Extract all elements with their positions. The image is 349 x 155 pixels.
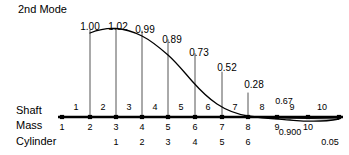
amplitude-label-8: 0.900 bbox=[279, 128, 302, 137]
shaft-number-6: 6 bbox=[205, 103, 210, 112]
shaft-number-1: 1 bbox=[73, 103, 78, 112]
mode-shape-figure: 2nd Mode Shaft Mass Cylinder 1.001.020.9… bbox=[0, 0, 349, 155]
figure-title: 2nd Mode bbox=[18, 4, 67, 15]
cylinder-number-5: 5 bbox=[219, 138, 224, 147]
row-label-mass: Mass bbox=[16, 120, 42, 131]
mass-node-2 bbox=[88, 115, 92, 119]
mass-number-5: 5 bbox=[165, 123, 170, 132]
mass-node-4 bbox=[140, 115, 144, 119]
amplitude-label-5: 0.52 bbox=[217, 63, 236, 73]
mass-number-7: 7 bbox=[219, 123, 224, 132]
mass-node-5 bbox=[166, 115, 170, 119]
cylinder-number-1: 1 bbox=[113, 138, 118, 147]
shaft-number-5: 5 bbox=[178, 103, 183, 112]
shaft-number-8: 8 bbox=[259, 103, 264, 112]
mass-number-1: 1 bbox=[59, 123, 64, 132]
mass-node-end bbox=[337, 115, 341, 119]
mass-node-10 bbox=[306, 115, 310, 119]
amplitude-label-2: 0.99 bbox=[135, 25, 154, 35]
mass-node-7 bbox=[220, 115, 224, 119]
mass-number-8: 8 bbox=[245, 123, 250, 132]
cylinder-number-6: 6 bbox=[245, 138, 250, 147]
row-label-cylinder: Cylinder bbox=[16, 136, 56, 147]
mass-node-6 bbox=[193, 115, 197, 119]
row-label-shaft: Shaft bbox=[16, 105, 42, 116]
mass-number-10: 10 bbox=[303, 123, 313, 132]
mass-node-8 bbox=[246, 115, 250, 119]
cylinder-number-3: 3 bbox=[165, 138, 170, 147]
amplitude-label-0: 1.00 bbox=[80, 22, 99, 32]
mass-number-2: 2 bbox=[87, 123, 92, 132]
mass-number-6: 6 bbox=[192, 123, 197, 132]
mass-number-9: 9 bbox=[274, 123, 279, 132]
amplitude-label-6: 0.28 bbox=[244, 80, 263, 90]
cylinder-number-4: 4 bbox=[192, 138, 197, 147]
mass-number-3: 3 bbox=[113, 123, 118, 132]
shaft-number-9: 9 bbox=[289, 103, 294, 112]
amplitude-label-9: 0.05 bbox=[321, 138, 339, 147]
mass-node-3 bbox=[114, 115, 118, 119]
shaft-number-2: 2 bbox=[100, 103, 105, 112]
cylinder-number-2: 2 bbox=[139, 138, 144, 147]
shaft-number-4: 4 bbox=[152, 103, 157, 112]
shaft-number-10: 10 bbox=[317, 103, 327, 112]
shaft-number-3: 3 bbox=[126, 103, 131, 112]
amplitude-label-4: 0.73 bbox=[189, 48, 208, 58]
shaft-number-7: 7 bbox=[232, 103, 237, 112]
mass-number-4: 4 bbox=[139, 123, 144, 132]
amplitude-label-1: 1.02 bbox=[108, 22, 127, 32]
amplitude-label-3: 0.89 bbox=[162, 35, 181, 45]
mass-node-1 bbox=[60, 115, 64, 119]
mass-node-9 bbox=[275, 115, 279, 119]
